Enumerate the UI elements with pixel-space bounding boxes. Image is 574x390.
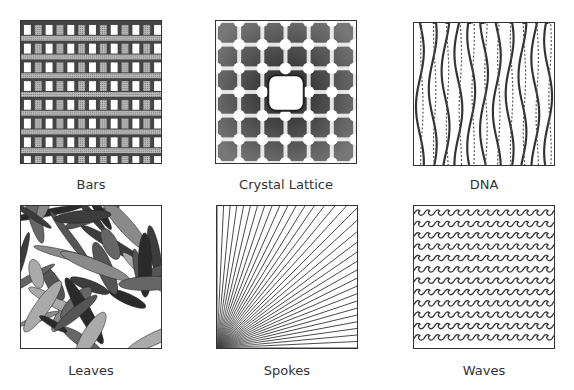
bars-label: Bars xyxy=(11,177,171,192)
crystal-lattice-pattern-icon xyxy=(216,21,356,163)
crystal-lattice-label: Crystal Lattice xyxy=(206,177,366,192)
dna-pattern-icon xyxy=(414,23,554,165)
leaves-pattern-icon xyxy=(21,206,161,348)
bars-pattern-tile[interactable] xyxy=(20,20,162,164)
waves-label: Waves xyxy=(404,363,564,378)
spokes-label: Spokes xyxy=(207,363,367,378)
bars-pattern-icon xyxy=(21,21,161,163)
spokes-pattern-tile[interactable] xyxy=(216,205,358,349)
waves-pattern-icon xyxy=(414,206,554,348)
spokes-pattern-icon xyxy=(217,206,357,348)
dna-pattern-tile[interactable] xyxy=(413,22,555,166)
leaves-pattern-tile[interactable] xyxy=(20,205,162,349)
waves-pattern-tile[interactable] xyxy=(413,205,555,349)
leaves-label: Leaves xyxy=(11,363,171,378)
crystal-lattice-pattern-tile[interactable] xyxy=(215,20,357,164)
dna-label: DNA xyxy=(404,177,564,192)
